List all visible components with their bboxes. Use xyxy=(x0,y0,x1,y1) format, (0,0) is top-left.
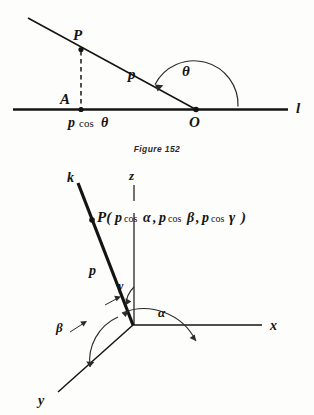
label-beta-coord: β xyxy=(186,210,195,225)
figure-direction-cosines-bottom: x y z k p γ β α P( p cos α , p cos β , p… xyxy=(0,165,314,415)
figure-caption-top: Figure 152 xyxy=(134,144,181,154)
label-cos-3: cos xyxy=(211,213,224,224)
label-point-p-coordinates: P( p cos α , p cos β , p cos γ ) xyxy=(97,209,246,226)
angle-beta-leader-head xyxy=(80,321,87,326)
label-angle-theta: θ xyxy=(182,63,190,79)
label-projection: p cos θ xyxy=(67,115,109,130)
label-gamma-coord: γ xyxy=(229,209,236,225)
angle-gamma-leader-head xyxy=(114,296,121,301)
label-cos-1: cos xyxy=(124,213,137,224)
ray-k-line xyxy=(78,183,133,325)
angle-theta-arc xyxy=(155,61,238,107)
point-dot-a xyxy=(78,107,83,112)
label-angle-beta: β xyxy=(55,320,63,335)
ray-op xyxy=(28,18,196,110)
point-dot-p xyxy=(78,47,83,52)
figure-152-top: P A O p p cos θ θ l Figure 152 xyxy=(0,0,314,165)
label-projection-theta: θ xyxy=(101,115,109,130)
label-projection-p: p xyxy=(67,115,75,130)
label-segment-p-3d: p xyxy=(88,263,96,278)
label-point-o: O xyxy=(189,114,200,130)
label-point-a: A xyxy=(59,91,70,107)
label-p-var-3: p xyxy=(201,210,209,225)
label-axis-y: y xyxy=(36,393,45,408)
label-angle-alpha: α xyxy=(158,305,166,320)
label-axis-x: x xyxy=(269,318,277,333)
label-p-close: ) xyxy=(239,209,246,226)
label-alpha-coord: α xyxy=(143,210,151,225)
label-p-var-1: p xyxy=(114,210,122,225)
label-line-l: l xyxy=(296,100,301,116)
label-ray-k: k xyxy=(67,170,74,185)
label-axis-z: z xyxy=(128,168,135,183)
figure-sheet: P A O p p cos θ θ l Figure 152 xyxy=(0,0,314,415)
label-segment-p: p xyxy=(126,66,136,82)
label-comma-2: , xyxy=(195,210,200,225)
angle-beta-leader xyxy=(70,323,84,332)
axis-y-line xyxy=(58,325,133,392)
label-point-p: P xyxy=(73,27,83,43)
point-dot-p-3d xyxy=(89,217,95,223)
point-dot-o xyxy=(193,107,199,113)
label-angle-gamma: γ xyxy=(118,278,124,293)
label-p-open: P( xyxy=(97,209,112,226)
label-cos-2: cos xyxy=(168,213,181,224)
label-projection-cos: cos xyxy=(79,117,94,129)
angle-gamma-arrowhead xyxy=(126,298,132,305)
label-p-var-2: p xyxy=(158,210,166,225)
label-comma-1: , xyxy=(152,210,157,225)
